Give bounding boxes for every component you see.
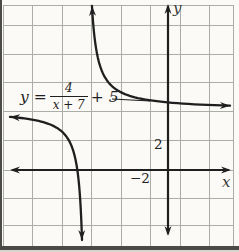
x-axis-label: x — [222, 175, 230, 190]
fraction-numerator: 4 — [59, 81, 79, 96]
fraction-denominator: x + 7 — [50, 96, 88, 112]
equation-fraction: 4 x + 7 — [50, 81, 88, 113]
x-tick-label-neg2: −2 — [130, 172, 150, 186]
equation-rhs: + 5 — [91, 88, 119, 106]
equation-label: y = 4 x + 7 + 5 — [20, 81, 119, 113]
y-axis-label: y — [173, 1, 181, 16]
hyperbola-plot — [0, 0, 239, 252]
graph-figure: y = 4 x + 7 + 5 y x 2 −2 — [0, 0, 239, 252]
equation-lhs: y = — [20, 88, 47, 106]
y-tick-label-2: 2 — [154, 138, 163, 152]
